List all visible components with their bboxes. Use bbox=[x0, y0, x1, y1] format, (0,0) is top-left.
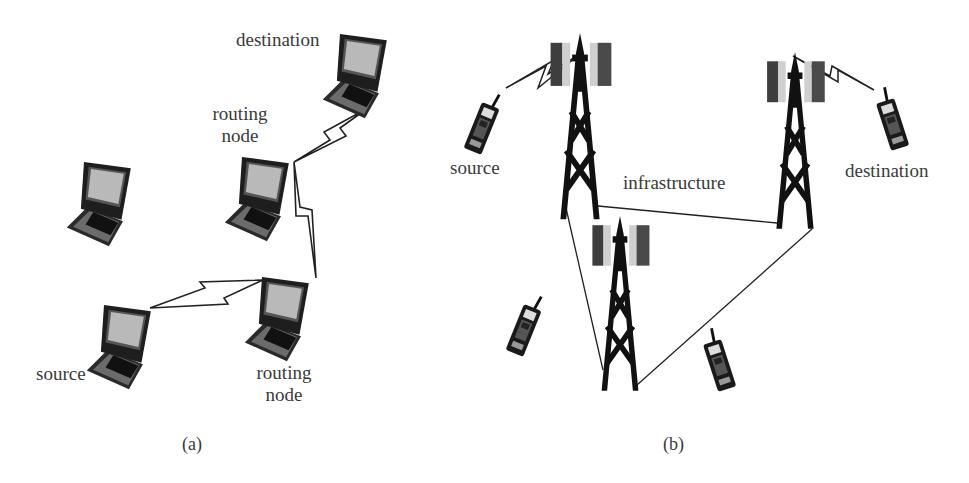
cell-tower-icon-1 bbox=[551, 33, 612, 219]
laptop-icon-source bbox=[87, 305, 151, 389]
wireless-link-routing1-destination bbox=[294, 108, 368, 162]
label-routing-node-bottom-line1: routing bbox=[254, 362, 314, 384]
cellphone-icon-idle-1 bbox=[505, 292, 546, 357]
laptop-icon-routing-node-2 bbox=[245, 277, 309, 361]
panel-b bbox=[463, 33, 909, 392]
laptop-icon-idle bbox=[67, 162, 131, 246]
label-routing-node-top-line2: node bbox=[210, 125, 270, 147]
label-source-a: source bbox=[36, 363, 86, 385]
wireless-link-source-routing2 bbox=[150, 280, 263, 308]
label-source-b: source bbox=[450, 157, 500, 179]
caption-b: (b) bbox=[663, 434, 684, 455]
cell-tower-icon-2 bbox=[767, 52, 825, 229]
cell-tower-icon-3 bbox=[592, 216, 649, 391]
label-destination-b: destination bbox=[845, 160, 928, 182]
laptop-icon-destination bbox=[323, 34, 387, 118]
panel-a bbox=[67, 34, 387, 389]
label-routing-node-bottom: routing node bbox=[254, 362, 314, 406]
label-infrastructure: infrastructure bbox=[623, 172, 725, 194]
network-diagram bbox=[0, 0, 969, 483]
wireless-link-routing2-routing1 bbox=[294, 162, 316, 278]
cellphone-icon-source bbox=[463, 90, 504, 155]
wired-link-tower1-tower2 bbox=[598, 206, 777, 223]
label-routing-node-top-line1: routing bbox=[210, 103, 270, 125]
label-routing-node-bottom-line2: node bbox=[254, 384, 314, 406]
label-destination-a: destination bbox=[236, 29, 319, 51]
label-routing-node-top: routing node bbox=[210, 103, 270, 147]
cellphone-icon-idle-2 bbox=[699, 326, 736, 392]
cellphone-icon-destination bbox=[872, 85, 909, 151]
caption-a: (a) bbox=[182, 434, 202, 455]
laptop-icon-routing-node-1 bbox=[225, 157, 289, 241]
